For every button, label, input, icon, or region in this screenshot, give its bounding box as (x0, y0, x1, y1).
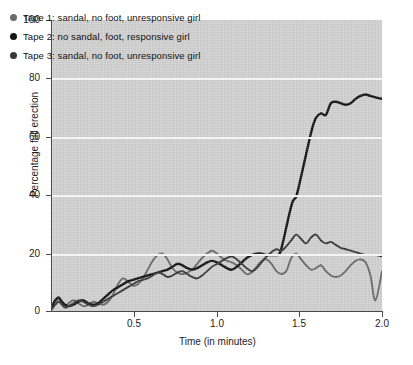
legend-item-tape-3: Tape 3: sandal, no foot, unresponsive gi… (10, 46, 310, 65)
x-tick-label-1.5: 1.5 (279, 319, 319, 329)
legend-marker-icon-tape-1 (10, 14, 17, 21)
series-line-2 (52, 94, 382, 306)
x-tick-0.5 (134, 312, 135, 317)
gridline-80 (52, 78, 382, 80)
legend-label-tape-2: Tape 2: no sandal, foot, responsive girl (23, 31, 190, 42)
x-axis-title: Time (in minutes) (52, 336, 383, 347)
y-tick-label-20: 20 (0, 249, 40, 259)
legend-item-tape-2: Tape 2: no sandal, foot, responsive girl (10, 27, 310, 46)
y-tick-20 (46, 254, 52, 255)
legend-marker-icon-tape-2 (10, 33, 17, 40)
y-tick-label-0: 0 (0, 306, 40, 316)
chart-legend: Tape 1: sandal, no foot, unresponsive gi… (10, 8, 310, 65)
y-tick-0 (46, 311, 52, 312)
x-tick-1.5 (299, 312, 300, 317)
x-tick-2.0 (382, 312, 383, 317)
legend-label-tape-1: Tape 1: sandal, no foot, unresponsive gi… (23, 12, 200, 23)
gridline-20 (52, 254, 382, 256)
chart-figure: 100 80 60 40 20 0 0.5 1.0 1.5 2.0 Percen… (0, 0, 413, 365)
y-tick-40 (46, 195, 52, 196)
gridline-60 (52, 137, 382, 139)
legend-item-tape-1: Tape 1: sandal, no foot, unresponsive gi… (10, 8, 310, 27)
x-tick-label-0.5: 0.5 (114, 319, 154, 329)
series-line-3 (52, 235, 382, 310)
x-tick-label-2.0: 2.0 (362, 319, 402, 329)
y-tick-80 (46, 78, 52, 79)
legend-marker-icon-tape-3 (10, 52, 17, 59)
x-tick-1.0 (217, 312, 218, 317)
gridline-40 (52, 195, 382, 197)
x-tick-label-1.0: 1.0 (197, 319, 237, 329)
y-axis-title: Percentage full erection (29, 65, 40, 225)
legend-label-tape-3: Tape 3: sandal, no foot, unresponsive gi… (23, 50, 200, 61)
y-tick-60 (46, 137, 52, 138)
